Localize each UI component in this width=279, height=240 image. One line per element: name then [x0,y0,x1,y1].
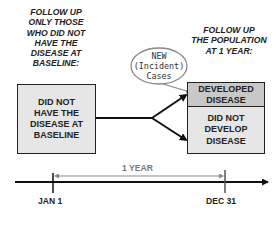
box-no-disease-baseline: DID NOT HAVE THE DISEASE AT BASELINE [17,84,96,154]
box-did-not-develop: DID NOT DEVELOP DISEASE [187,106,265,154]
box-developed-disease: DEVELOPED DISEASE [187,82,265,108]
start-date-label: JAN 1 [38,196,62,206]
bubble-line: (Incident) [131,61,187,71]
box-line: DISEASE [204,136,247,147]
box-line: DID NOT [204,113,247,124]
timeline [15,170,268,193]
end-date-label: DEC 31 [206,196,236,206]
bubble-line: NEW [131,51,187,61]
branch-arrows [96,95,186,140]
box-line: DEVELOPED [198,84,254,95]
box-line: BASELINE [30,130,83,141]
box-line: DISEASE AT [30,119,83,130]
bubble-line: Cases [131,71,187,81]
box-line: DEVELOP [204,124,247,135]
box-line: DID NOT [30,97,83,108]
box-line: DISEASE [198,95,254,106]
duration-label: 1 YEAR [122,163,153,173]
incident-cases-label: NEW (Incident) Cases [131,51,187,82]
box-line: HAVE THE [30,108,83,119]
